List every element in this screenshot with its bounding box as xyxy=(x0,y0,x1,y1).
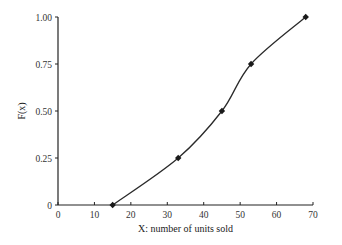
x-tick-label: 0 xyxy=(56,210,61,220)
y-axis-ticks: 00.250.500.751.00 xyxy=(35,13,58,211)
cdf-curve xyxy=(113,17,306,205)
x-tick-label: 50 xyxy=(235,210,245,220)
x-tick-label: 10 xyxy=(90,210,100,220)
x-axis-label: X: number of units sold xyxy=(138,223,233,234)
y-tick-label: 0.75 xyxy=(35,60,52,70)
y-tick-label: 0.25 xyxy=(35,154,52,164)
x-tick-label: 70 xyxy=(308,210,318,220)
y-tick-label: 0.50 xyxy=(35,107,52,117)
data-markers xyxy=(109,14,308,208)
y-tick-label: 1.00 xyxy=(35,13,52,23)
x-tick-label: 30 xyxy=(163,210,173,220)
y-axis-label: F(x) xyxy=(16,102,28,119)
x-tick-label: 40 xyxy=(199,210,209,220)
y-tick-label: 0 xyxy=(47,201,52,211)
cdf-chart: 00.250.500.751.00 010203040506070 X: num… xyxy=(0,0,342,245)
x-tick-label: 60 xyxy=(272,210,282,220)
x-tick-label: 20 xyxy=(126,210,136,220)
